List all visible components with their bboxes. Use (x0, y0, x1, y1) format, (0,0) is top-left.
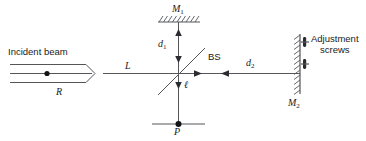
d2-subscript: 2 (251, 62, 255, 70)
adjustment-screws-label: Adjustment screws (311, 34, 359, 56)
d1-arrow-up (175, 29, 182, 36)
beam-radius-label: R (56, 86, 62, 98)
d1-subscript: 1 (163, 43, 167, 51)
mirror-m1-subscript: 1 (180, 8, 184, 16)
l-arrow-down (175, 82, 182, 89)
mirror-m2-label: M2 (288, 97, 300, 110)
small-l-label: ℓ (184, 79, 188, 91)
axis-arrow-right (194, 70, 202, 77)
diagram-canvas: .ln { stroke:#55565a; stroke-width:1; fi… (0, 0, 366, 141)
mirror-m1 (158, 16, 200, 22)
mirror-m2-hatching (294, 35, 300, 95)
mirror-m1-label: M1 (172, 3, 184, 16)
detector-p-label: P (174, 126, 180, 138)
incident-beam-rays (10, 65, 95, 83)
adjustment-screw-lower (301, 59, 309, 69)
adjustment-screw-upper (301, 37, 309, 47)
distance-d2-label: d2 (246, 57, 255, 70)
beam-splitter-line (158, 48, 205, 95)
beam-splitter-label: BS (208, 52, 221, 63)
distance-d1-label: d1 (158, 38, 167, 51)
mirror-m2 (294, 34, 300, 95)
axis-arrow-left (221, 70, 229, 77)
incident-beam-label: Incident beam (8, 47, 68, 58)
adjustment-screws-line2: screws (311, 45, 359, 56)
michelson-interferometer-figure: .ln { stroke:#55565a; stroke-width:1; fi… (0, 0, 366, 141)
beam-axis-dot (44, 71, 49, 76)
mirror-m2-subscript: 2 (296, 102, 300, 110)
mirror-m1-hatching (159, 16, 199, 22)
d1-arrow-down (175, 56, 182, 63)
path-length-L-label: L (125, 60, 131, 72)
